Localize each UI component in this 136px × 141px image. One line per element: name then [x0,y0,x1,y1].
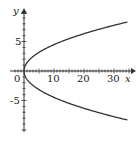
y-axis-label: y [13,6,19,16]
y-tick-minus-5: -5 [10,96,20,106]
x-tick-0: 0 [14,74,20,84]
parabola-chart [0,0,136,141]
x-tick-10: 10 [47,74,60,84]
x-axis-arrow-icon [131,68,136,74]
x-tick-20: 20 [77,74,90,84]
y-tick-5: 5 [15,37,21,47]
y-axis-arrow-icon [21,8,27,14]
x-axis-label: x [125,74,131,84]
x-tick-30: 30 [107,74,120,84]
